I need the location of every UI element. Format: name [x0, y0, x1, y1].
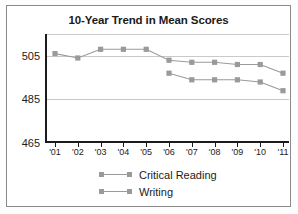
data-point-marker	[235, 62, 240, 67]
y-axis-tick-label: 485	[22, 93, 40, 105]
legend-label: Writing	[139, 186, 173, 198]
data-point-marker	[212, 60, 217, 65]
series-line	[169, 73, 283, 91]
data-point-marker	[166, 71, 171, 76]
legend-label: Critical Reading	[139, 169, 217, 181]
legend-swatch-icon	[99, 187, 132, 197]
plot-area: 465485505 '01'02'03'04'05'06'07'08'09'10…	[45, 34, 289, 143]
x-axis-tick	[123, 143, 124, 147]
data-point-marker	[280, 88, 285, 93]
data-point-marker	[235, 77, 240, 82]
x-axis-tick-label: '01	[49, 147, 61, 157]
x-axis-tick-label: '06	[163, 147, 175, 157]
x-axis-tick-label: '04	[118, 147, 130, 157]
legend-swatch-icon	[99, 170, 132, 180]
x-axis-tick	[237, 143, 238, 147]
legend-item-critical-reading: Critical Reading	[99, 166, 217, 183]
x-axis-tick-label: '11	[277, 147, 288, 157]
data-point-marker	[144, 47, 149, 52]
x-axis-tick	[78, 143, 79, 147]
data-series-layer	[45, 34, 289, 143]
x-axis-tick	[215, 143, 216, 147]
data-point-marker	[258, 62, 263, 67]
data-point-marker	[166, 58, 171, 63]
data-point-marker	[258, 79, 263, 84]
data-point-marker	[75, 55, 80, 60]
x-axis-tick-label: '02	[72, 147, 84, 157]
data-point-marker	[121, 47, 126, 52]
x-axis-tick-label: '09	[232, 147, 244, 157]
x-axis-tick	[192, 143, 193, 147]
x-axis-tick-label: '07	[186, 147, 198, 157]
y-axis-tick-label: 465	[22, 137, 40, 149]
data-point-marker	[280, 71, 285, 76]
x-axis-tick-label: '03	[95, 147, 107, 157]
x-axis-tick	[283, 143, 284, 147]
x-axis-tick	[55, 143, 56, 147]
chart-title: 10-Year Trend in Mean Scores	[7, 14, 290, 26]
x-axis-tick-label: '08	[209, 147, 221, 157]
x-axis-tick	[169, 143, 170, 147]
data-point-marker	[189, 60, 194, 65]
data-point-marker	[52, 51, 57, 56]
data-point-marker	[212, 77, 217, 82]
legend-item-writing: Writing	[99, 183, 217, 200]
x-axis-tick	[260, 143, 261, 147]
x-axis-tick-label: '05	[140, 147, 152, 157]
chart-figure: 10-Year Trend in Mean Scores 465485505 '…	[6, 5, 291, 207]
x-axis-tick	[146, 143, 147, 147]
data-point-marker	[189, 77, 194, 82]
x-axis-tick	[101, 143, 102, 147]
y-axis-tick-label: 505	[22, 50, 40, 62]
x-axis-tick-label: '10	[254, 147, 266, 157]
chart-legend: Critical Reading Writing	[99, 166, 217, 200]
data-point-marker	[98, 47, 103, 52]
